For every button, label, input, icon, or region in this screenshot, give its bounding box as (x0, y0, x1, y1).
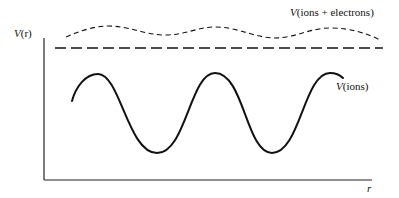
ions-curve-label: V(ions) (336, 80, 369, 93)
ions-electrons-potential-curve (66, 26, 380, 40)
x-axis-label: r (367, 182, 372, 194)
potential-diagram: V(r) r V(ions + electrons) V(ions) (0, 0, 399, 198)
y-axis-label: V(r) (14, 27, 32, 40)
ions-electrons-curve-label: V(ions + electrons) (290, 6, 374, 19)
ions-potential-curve (72, 73, 343, 153)
